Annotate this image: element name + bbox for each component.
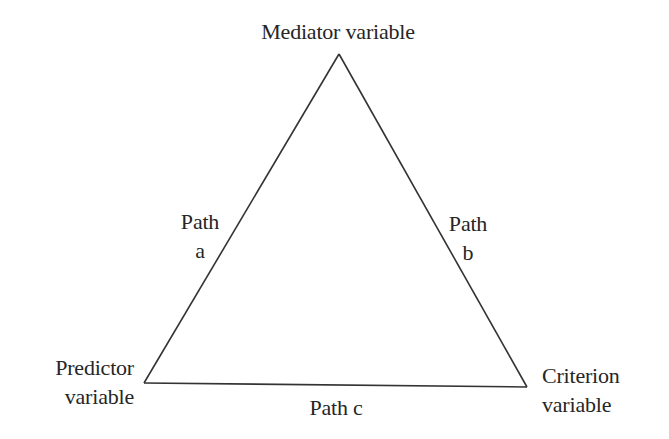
path-a-word: Path [172, 207, 228, 236]
criterion-line-1: Criterion [542, 361, 662, 390]
path-b-letter: b [440, 238, 496, 267]
node-mediator-label: Mediator variable [230, 17, 446, 46]
edge-path-c-label: Path c [280, 393, 392, 422]
node-criterion-label: Criterion variable [542, 361, 662, 419]
predictor-line-1: Predictor [20, 353, 134, 382]
edge-path-b-label: Path b [440, 209, 496, 267]
edge-path-c [144, 383, 527, 387]
path-c-text: Path c [280, 393, 392, 422]
mediator-text: Mediator variable [230, 17, 446, 46]
edge-path-a-label: Path a [172, 207, 228, 265]
node-predictor-label: Predictor variable [20, 353, 134, 411]
predictor-line-2: variable [20, 382, 134, 411]
mediation-diagram: Mediator variable Path a Path b Predicto… [0, 0, 669, 439]
path-b-word: Path [440, 209, 496, 238]
path-a-letter: a [172, 236, 228, 265]
edge-path-b [339, 54, 527, 387]
criterion-line-2: variable [542, 390, 662, 419]
